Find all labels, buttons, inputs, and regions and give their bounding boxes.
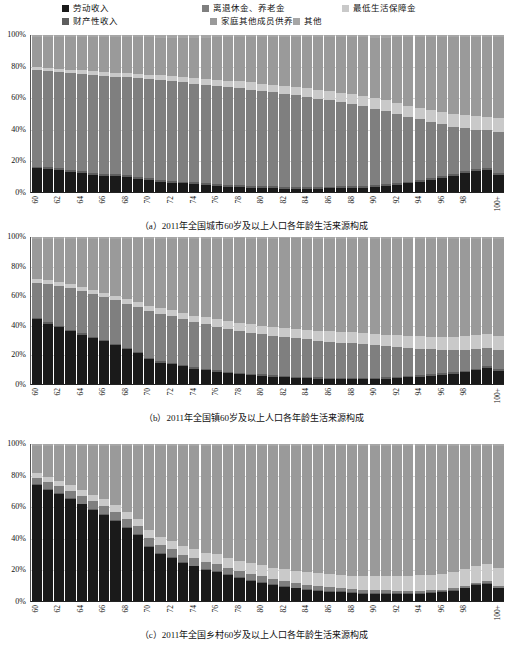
bar[interactable] — [403, 237, 413, 384]
bar[interactable] — [324, 237, 334, 384]
bar[interactable] — [268, 35, 278, 192]
bar[interactable] — [370, 237, 380, 384]
bar[interactable] — [257, 35, 267, 192]
bar[interactable] — [336, 35, 346, 192]
bar[interactable] — [257, 444, 267, 601]
bar[interactable] — [167, 237, 177, 384]
bar[interactable] — [54, 35, 64, 192]
bar[interactable] — [122, 444, 132, 601]
bar[interactable] — [99, 444, 109, 601]
bar[interactable] — [471, 444, 481, 601]
bar[interactable] — [155, 444, 165, 601]
bar[interactable] — [437, 237, 447, 384]
bar[interactable] — [347, 444, 357, 601]
bar[interactable] — [291, 444, 301, 601]
bar[interactable] — [482, 237, 492, 384]
bar[interactable] — [155, 237, 165, 384]
bar[interactable] — [381, 35, 391, 192]
bar[interactable] — [313, 237, 323, 384]
bar[interactable] — [471, 35, 481, 192]
bar[interactable] — [291, 237, 301, 384]
bar[interactable] — [415, 237, 425, 384]
bar[interactable] — [291, 35, 301, 192]
bar[interactable] — [122, 35, 132, 192]
bar[interactable] — [493, 444, 503, 601]
bar[interactable] — [223, 237, 233, 384]
bar[interactable] — [155, 35, 165, 192]
bar[interactable] — [189, 237, 199, 384]
bar[interactable] — [460, 237, 470, 384]
bar[interactable] — [324, 444, 334, 601]
bar[interactable] — [212, 444, 222, 601]
bar[interactable] — [279, 444, 289, 601]
bar[interactable] — [99, 237, 109, 384]
bar[interactable] — [88, 35, 98, 192]
bar[interactable] — [189, 35, 199, 192]
bar[interactable] — [246, 35, 256, 192]
bar[interactable] — [448, 237, 458, 384]
bar[interactable] — [189, 444, 199, 601]
bar[interactable] — [493, 35, 503, 192]
bar[interactable] — [471, 237, 481, 384]
bar[interactable] — [234, 35, 244, 192]
bar[interactable] — [167, 444, 177, 601]
bar[interactable] — [336, 237, 346, 384]
bar[interactable] — [370, 35, 380, 192]
bar[interactable] — [313, 35, 323, 192]
bar[interactable] — [54, 444, 64, 601]
bar[interactable] — [32, 444, 42, 601]
bar[interactable] — [43, 35, 53, 192]
bar[interactable] — [460, 444, 470, 601]
bar[interactable] — [88, 237, 98, 384]
bar[interactable] — [167, 35, 177, 192]
bar[interactable] — [212, 237, 222, 384]
bar[interactable] — [77, 35, 87, 192]
bar[interactable] — [110, 35, 120, 192]
bar[interactable] — [144, 444, 154, 601]
bar[interactable] — [415, 35, 425, 192]
bar[interactable] — [110, 237, 120, 384]
bar[interactable] — [302, 35, 312, 192]
bar[interactable] — [403, 444, 413, 601]
bar[interactable] — [65, 35, 75, 192]
bar[interactable] — [313, 444, 323, 601]
bar[interactable] — [144, 35, 154, 192]
bar[interactable] — [358, 35, 368, 192]
bar[interactable] — [32, 35, 42, 192]
bar[interactable] — [336, 444, 346, 601]
bar[interactable] — [223, 444, 233, 601]
bar[interactable] — [65, 237, 75, 384]
bar[interactable] — [178, 444, 188, 601]
bar[interactable] — [381, 444, 391, 601]
bar[interactable] — [110, 444, 120, 601]
bar[interactable] — [201, 444, 211, 601]
bar[interactable] — [392, 444, 402, 601]
bar[interactable] — [43, 444, 53, 601]
bar[interactable] — [347, 237, 357, 384]
bar[interactable] — [302, 237, 312, 384]
bar[interactable] — [437, 444, 447, 601]
bar[interactable] — [257, 237, 267, 384]
bar[interactable] — [32, 237, 42, 384]
bar[interactable] — [88, 444, 98, 601]
bar[interactable] — [144, 237, 154, 384]
bar[interactable] — [370, 444, 380, 601]
bar[interactable] — [347, 35, 357, 192]
bar[interactable] — [178, 237, 188, 384]
bar[interactable] — [212, 35, 222, 192]
bar[interactable] — [460, 35, 470, 192]
bar[interactable] — [426, 35, 436, 192]
bar[interactable] — [133, 444, 143, 601]
bar[interactable] — [246, 237, 256, 384]
bar[interactable] — [133, 237, 143, 384]
bar[interactable] — [448, 444, 458, 601]
bar[interactable] — [65, 444, 75, 601]
bar[interactable] — [426, 237, 436, 384]
bar[interactable] — [482, 444, 492, 601]
bar[interactable] — [493, 237, 503, 384]
bar[interactable] — [482, 35, 492, 192]
bar[interactable] — [302, 444, 312, 601]
bar[interactable] — [234, 237, 244, 384]
bar[interactable] — [201, 237, 211, 384]
bar[interactable] — [122, 237, 132, 384]
